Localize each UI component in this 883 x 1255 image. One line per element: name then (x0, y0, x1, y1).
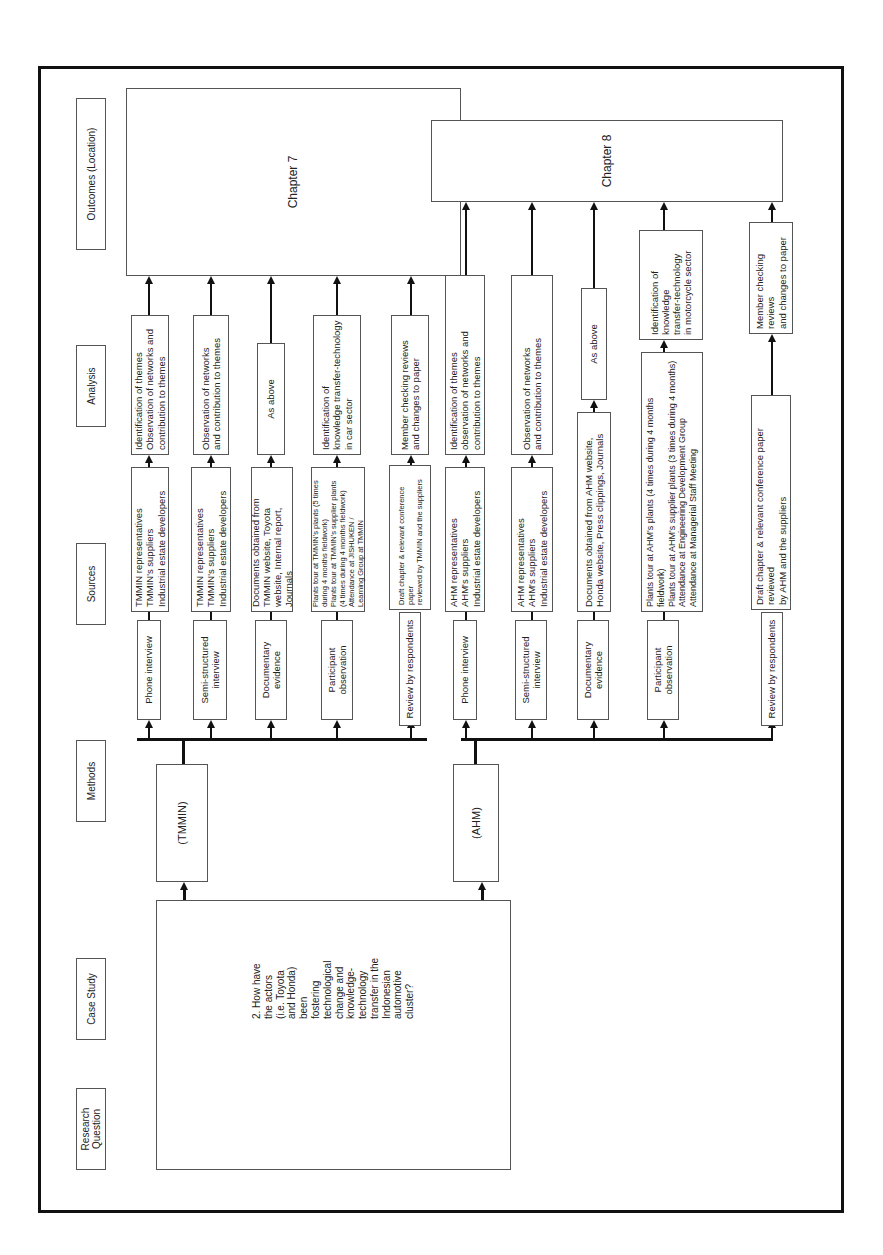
case-box-tmmin: (TMMIN) (156, 764, 208, 882)
arrow-head-icon (768, 202, 776, 210)
connector (593, 612, 595, 620)
tmmin-method-review: Review by respondents (399, 612, 421, 726)
connector (336, 282, 338, 315)
ahm-source-documentary: Documents obtained from AHM website, Hon… (577, 412, 611, 612)
arrow-head-icon (590, 720, 598, 728)
connector (593, 726, 595, 740)
header-analysis: Analysis (76, 345, 106, 427)
header-case-study: Case Study (76, 958, 106, 1040)
arrow-head-icon (590, 400, 598, 408)
connector (531, 207, 533, 275)
tmmin-method-semi-structured: Semi-structured interview (193, 620, 227, 720)
arrow-head-icon (660, 202, 668, 210)
tmmin-analysis-1: Identification of themes Observation of … (131, 315, 169, 455)
ahm-analysis-2: Observation of networks and contribution… (511, 275, 553, 455)
arrow-head-icon (207, 276, 215, 284)
arrow-head-icon (462, 455, 470, 463)
outcome-chapter-7: Chapter 7 (126, 88, 461, 276)
arrow-head-icon (462, 202, 470, 210)
connector (531, 612, 533, 620)
ahm-source-semi: AHM representatives AHM's suppliers Indu… (511, 467, 553, 612)
header-methods: Methods (76, 740, 106, 822)
arrow-head-icon (207, 455, 215, 463)
arrow-head-icon (267, 276, 275, 284)
connector (663, 726, 665, 740)
connector (270, 726, 272, 740)
tmmin-analysis-2: Observation of networks and contribution… (193, 315, 229, 455)
ahm-analysis-3: As above (581, 288, 607, 400)
tmmin-method-documentary: Documentary evidence (255, 620, 287, 720)
header-research-question: Research Question (76, 1088, 106, 1170)
ahm-analysis-4: Identification of knowledge transfer-tec… (639, 230, 703, 340)
arrow-head-icon (333, 720, 341, 728)
connector (771, 340, 773, 395)
arrow-head-icon (660, 720, 668, 728)
connector (465, 207, 467, 275)
tmmin-method-phone-interview: Phone interview (137, 620, 161, 720)
ahm-source-review: Draft chapter & relevant conference pape… (751, 395, 791, 610)
connector (336, 612, 338, 620)
arrow-head-icon (267, 455, 275, 463)
research-question-box: 2. How have the actors (i.e. Toyota and … (156, 900, 511, 1170)
tmmin-source-phone: TMMIN representatives TMMIN's suppliers … (131, 467, 169, 612)
connector (210, 612, 212, 620)
arrow-head-icon (333, 276, 341, 284)
arrow-head-icon (407, 455, 415, 463)
tmmin-analysis-3: As above (257, 343, 285, 455)
connector (270, 612, 272, 620)
connector (210, 726, 212, 740)
arrow-head-icon (407, 276, 415, 284)
connector (148, 282, 150, 315)
arrow-head-icon (207, 720, 215, 728)
arrow-head-icon (528, 720, 536, 728)
arrow-head-icon (462, 720, 470, 728)
bus-ahm (461, 738, 773, 741)
connector (336, 726, 338, 740)
tmmin-analysis-4: Identification of knowledge transfer-tec… (313, 315, 361, 455)
connector (148, 726, 150, 740)
arrow-head-icon (145, 720, 153, 728)
ahm-analysis-1: Identification of themes observation of … (445, 275, 485, 455)
connector-ahm-bus (474, 740, 477, 764)
connector (771, 726, 773, 740)
connector (663, 207, 665, 230)
connector (410, 282, 412, 315)
arrow-head-icon (333, 455, 341, 463)
tmmin-analysis-5: Member checking reviews and changes to p… (391, 315, 429, 455)
tmmin-source-review: Draft chapter & relevant conference pape… (389, 465, 431, 610)
arrow-head-icon (145, 455, 153, 463)
outcome-chapter-8: Chapter 8 (431, 120, 783, 202)
bus-tmmin (137, 738, 427, 741)
ahm-method-phone-interview: Phone interview (453, 620, 477, 720)
connector (410, 726, 412, 740)
tmmin-source-semi: TMMIN representatives TMMIN's suppliers … (191, 467, 231, 612)
tmmin-source-documentary: Documents obtained from TMMIN website, T… (251, 467, 293, 612)
ahm-analysis-5: Member checking reviews and changes to p… (749, 222, 793, 334)
arrow-head-icon (528, 455, 536, 463)
connector (531, 726, 533, 740)
ahm-source-participant: Plants tour at AHM's plants (4 times dur… (641, 352, 703, 612)
connector-tmmin-bus (182, 740, 185, 764)
connector (465, 612, 467, 620)
tmmin-method-participant: Participant observation (321, 620, 353, 720)
connector (465, 726, 467, 740)
arrow-head-icon (590, 202, 598, 210)
research-design-diagram: Research Question Case Study Methods Sou… (38, 66, 844, 1213)
arrow-head-icon (145, 276, 153, 284)
arrow-head-icon (528, 202, 536, 210)
header-sources: Sources (76, 543, 106, 625)
connector (663, 612, 665, 620)
ahm-method-participant: Participant observation (647, 620, 679, 720)
ahm-method-review: Review by respondents (761, 612, 783, 726)
case-box-ahm: (AHM) (453, 764, 499, 882)
arrow-head-icon (768, 334, 776, 342)
connector (593, 207, 595, 288)
ahm-method-documentary: Documentary evidence (577, 620, 609, 720)
connector (148, 612, 150, 620)
ahm-method-semi-structured: Semi-structured interview (515, 620, 547, 720)
header-outcomes: Outcomes (Location) (76, 98, 106, 250)
arrow-head-icon (478, 882, 486, 890)
connector (210, 282, 212, 315)
arrow-head-icon (180, 882, 188, 890)
arrow-head-icon (267, 720, 275, 728)
